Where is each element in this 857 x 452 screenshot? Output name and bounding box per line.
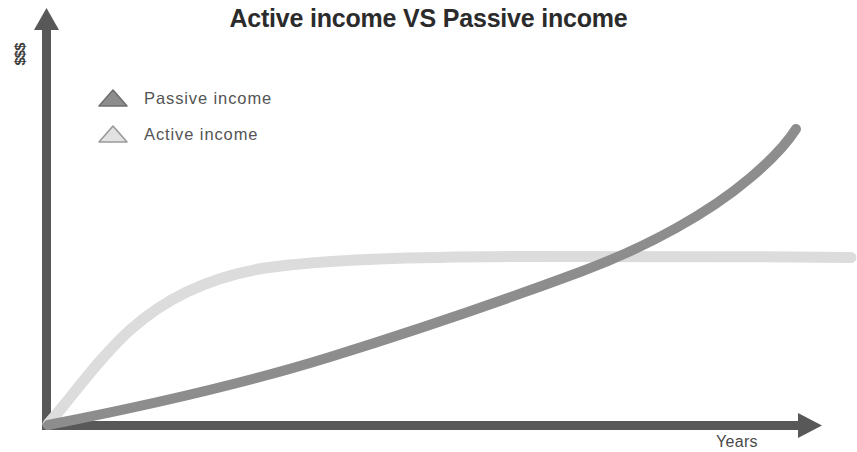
x-axis [42,413,822,438]
y-axis [34,8,59,428]
legend-label-active-income: Active income [144,125,258,144]
chart-container: Active income VS Passive income $$$ Year… [0,0,857,452]
triangle-icon [96,87,130,109]
chart-legend: Passive income Active income [96,80,272,152]
legend-item-passive-income[interactable]: Passive income [96,80,272,116]
legend-item-active-income[interactable]: Active income [96,116,272,152]
legend-label-passive-income: Passive income [144,89,272,108]
triangle-icon [96,123,130,145]
plot-area [0,0,857,452]
series-line-passive-income [48,129,796,425]
